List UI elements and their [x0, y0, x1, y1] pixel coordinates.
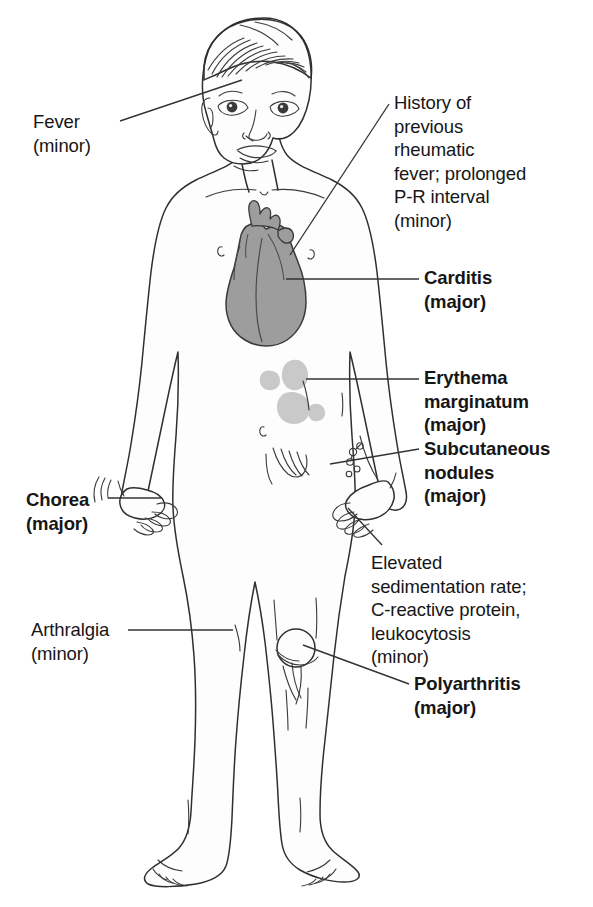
label-erythema-marginatum: Erythema marginatum (major): [424, 366, 529, 437]
label-elevated-sedimentation-rate: Elevated sedimentation rate; C-reactive …: [371, 551, 526, 669]
label-history-previous-rheumatic-fever: History of previous rheumatic fever; pro…: [394, 91, 526, 232]
label-chorea: Chorea (major): [26, 488, 89, 535]
label-carditis: Carditis (major): [424, 266, 492, 313]
figure-caption: [108, 889, 578, 907]
label-subcutaneous-nodules: Subcutaneous nodules (major): [424, 437, 550, 508]
label-fever: Fever (minor): [33, 110, 91, 157]
label-polyarthritis: Polyarthritis (major): [414, 672, 521, 719]
label-arthralgia: Arthralgia (minor): [31, 618, 109, 665]
rheumatic-fever-diagram: .ol { fill:none; stroke:#2f2f2f; stroke-…: [0, 0, 593, 907]
